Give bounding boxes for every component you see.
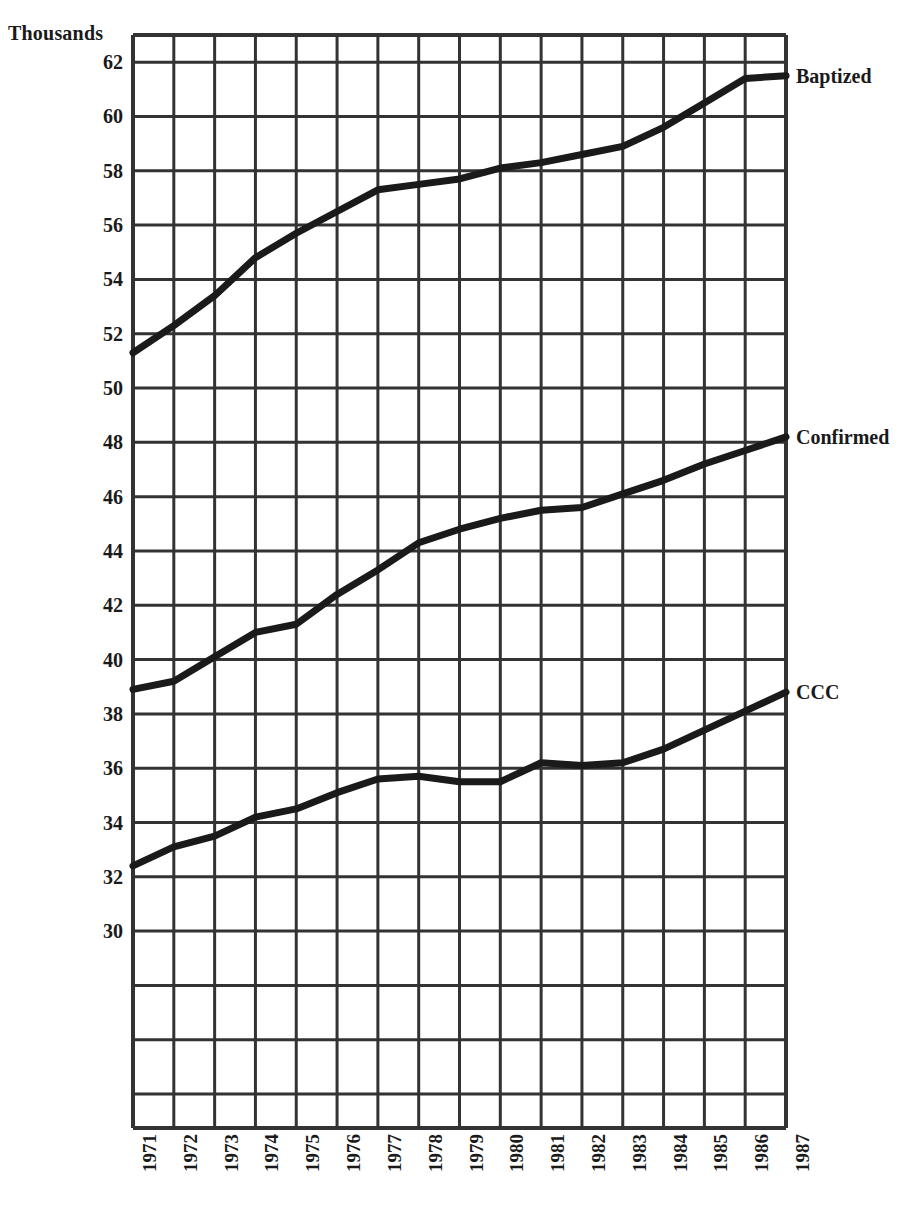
- y-axis-tick-58: 58: [33, 161, 123, 181]
- y-axis-tick-36: 36: [33, 758, 123, 778]
- y-axis-tick-44: 44: [33, 541, 123, 561]
- x-axis-tick-1985: 1985: [711, 1134, 730, 1172]
- x-axis-tick-labels: 1971197219731974197519761977197819791980…: [133, 1134, 786, 1224]
- x-axis-tick-1973: 1973: [222, 1134, 241, 1172]
- y-axis-tick-30: 30: [33, 921, 123, 941]
- y-axis-tick-50: 50: [33, 378, 123, 398]
- x-axis-tick-1980: 1980: [507, 1134, 526, 1172]
- x-axis-tick-1979: 1979: [467, 1134, 486, 1172]
- x-axis-tick-1971: 1971: [140, 1134, 159, 1172]
- y-axis-tick-56: 56: [33, 215, 123, 235]
- x-axis-tick-1987: 1987: [793, 1134, 812, 1172]
- series-label-confirmed: Confirmed: [796, 427, 889, 447]
- x-axis-tick-1974: 1974: [262, 1134, 281, 1172]
- y-axis-tick-60: 60: [33, 106, 123, 126]
- chart-page: Thousands 626058565452504846444240383634…: [0, 0, 918, 1227]
- plot-area: [133, 35, 786, 1128]
- y-axis-tick-54: 54: [33, 269, 123, 289]
- y-axis-tick-62: 62: [33, 52, 123, 72]
- y-axis-tick-48: 48: [33, 432, 123, 452]
- y-axis-tick-52: 52: [33, 324, 123, 344]
- series-label-baptized: Baptized: [796, 66, 872, 86]
- y-axis-tick-34: 34: [33, 813, 123, 833]
- y-axis-tick-32: 32: [33, 867, 123, 887]
- x-axis-tick-1986: 1986: [752, 1134, 771, 1172]
- series-label-ccc: CCC: [796, 682, 839, 702]
- y-axis-tick-38: 38: [33, 704, 123, 724]
- x-axis-tick-1975: 1975: [303, 1134, 322, 1172]
- x-axis-tick-1972: 1972: [181, 1134, 200, 1172]
- chart-series-lines: [133, 35, 786, 1128]
- x-axis-tick-1984: 1984: [671, 1134, 690, 1172]
- x-axis-tick-1977: 1977: [385, 1134, 404, 1172]
- x-axis-tick-1981: 1981: [548, 1134, 567, 1172]
- y-axis-tick-46: 46: [33, 487, 123, 507]
- x-axis-tick-1982: 1982: [589, 1134, 608, 1172]
- x-axis-tick-1983: 1983: [630, 1134, 649, 1172]
- y-axis-tick-labels: 6260585654525048464442403836343230: [28, 35, 123, 1128]
- y-axis-tick-42: 42: [33, 595, 123, 615]
- x-axis-tick-1978: 1978: [426, 1134, 445, 1172]
- x-axis-tick-1976: 1976: [344, 1134, 363, 1172]
- y-axis-tick-40: 40: [33, 650, 123, 670]
